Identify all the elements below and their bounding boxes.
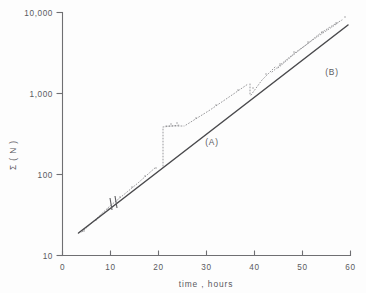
x-tick-labels-group: 0 10 20 30 40 50 60 xyxy=(60,263,356,272)
annotation-curve-a: (A) xyxy=(205,137,219,147)
data-point xyxy=(215,104,216,105)
dotted-upper-branch-2 xyxy=(278,23,338,68)
y-tick-label-1000: 1,000 xyxy=(30,90,54,99)
data-point xyxy=(119,196,120,197)
y-tick-labels-group: 10,000 1,000 100 10 xyxy=(24,9,53,261)
data-point xyxy=(252,87,253,88)
data-point xyxy=(279,63,280,64)
data-point xyxy=(344,16,345,17)
y-ticks-group xyxy=(57,13,63,256)
x-tick-label-0: 0 xyxy=(60,263,65,272)
semilog-chart: 10,000 1,000 100 10 0 10 20 30 40 50 60 … xyxy=(0,0,366,293)
data-point xyxy=(144,175,145,176)
data-point xyxy=(265,73,266,74)
y-tick-label-10: 10 xyxy=(43,252,53,261)
data-point xyxy=(237,89,238,90)
x-axis-title: time , hours xyxy=(179,279,234,289)
y-tick-label-10000: 10,000 xyxy=(24,9,53,18)
y-axis-title: Σ ( N ) xyxy=(8,140,18,170)
x-tick-label-40: 40 xyxy=(249,263,259,272)
x-tick-label-20: 20 xyxy=(153,263,163,272)
data-point xyxy=(83,230,84,231)
data-point xyxy=(321,31,322,32)
y-tick-label-100: 100 xyxy=(38,171,53,180)
x-tick-label-10: 10 xyxy=(105,263,115,272)
data-point xyxy=(170,123,171,124)
data-point xyxy=(307,41,308,42)
data-point xyxy=(131,186,132,187)
data-point xyxy=(293,51,294,52)
annotation-curve-b: (B) xyxy=(325,67,339,77)
x-tick-label-30: 30 xyxy=(201,263,211,272)
x-tick-label-50: 50 xyxy=(297,263,307,272)
data-point xyxy=(155,167,156,168)
x-tick-label-60: 60 xyxy=(345,263,355,272)
data-point xyxy=(176,122,177,123)
figure-container: 10,000 1,000 100 10 0 10 20 30 40 50 60 … xyxy=(0,0,366,293)
x-ticks-group xyxy=(63,251,351,256)
data-point xyxy=(195,117,196,118)
data-point xyxy=(335,22,336,23)
dotted-mid-trend xyxy=(186,84,248,125)
data-series-a-fit-line xyxy=(79,25,349,233)
